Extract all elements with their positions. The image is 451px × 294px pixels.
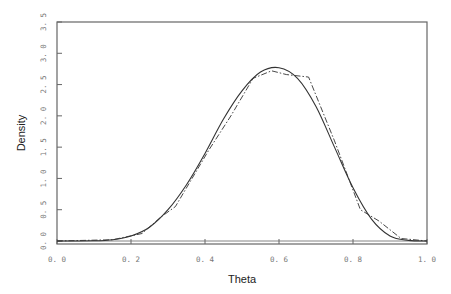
x-tick-label: 1. 0 <box>418 255 437 264</box>
x-tick-label: 0. 6 <box>270 255 289 264</box>
x-tick-label: 0. 4 <box>196 255 215 264</box>
x-tick-label: 0. 0 <box>48 255 67 264</box>
y-tick-label: 1. 0 <box>39 169 48 188</box>
y-tick-label: 0. 5 <box>39 201 48 219</box>
dashed-approximation-curve <box>57 71 427 241</box>
y-axis-ticks: 0. 00. 51. 01. 52. 02. 53. 03. 5 <box>39 13 62 250</box>
y-axis-title: Density <box>15 114 27 151</box>
y-tick-label: 1. 5 <box>39 138 48 156</box>
x-tick-label: 0. 2 <box>122 255 140 264</box>
x-tick-label: 0. 8 <box>344 255 363 264</box>
y-tick-label: 2. 0 <box>39 106 48 125</box>
plot-series <box>57 67 427 241</box>
y-tick-label: 2. 5 <box>39 76 48 94</box>
smooth-density-curve <box>57 67 427 241</box>
y-tick-label: 3. 0 <box>39 44 48 63</box>
plot-border <box>57 22 427 244</box>
y-tick-label: 3. 5 <box>39 13 48 31</box>
x-axis-title: Theta <box>228 273 257 285</box>
density-chart: 0. 00. 51. 01. 52. 02. 53. 03. 5 0. 00. … <box>0 0 451 294</box>
y-tick-label: 0. 0 <box>39 231 48 250</box>
x-axis-ticks: 0. 00. 20. 40. 60. 81. 0 <box>48 239 437 264</box>
plot-frame <box>57 22 427 244</box>
